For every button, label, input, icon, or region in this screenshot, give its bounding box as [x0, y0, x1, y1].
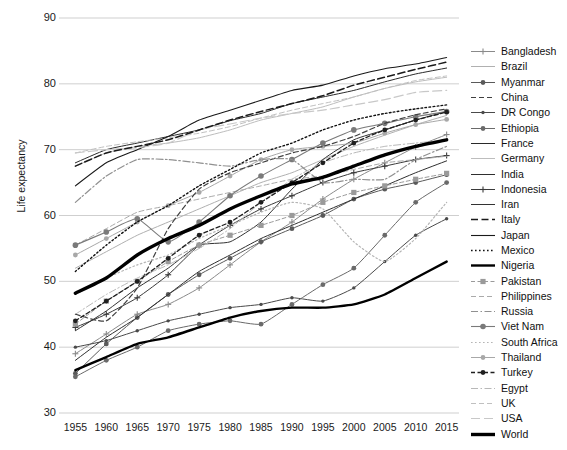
legend-item-mexico[interactable]: Mexico — [470, 243, 566, 258]
data-point — [290, 302, 295, 307]
data-point — [258, 173, 264, 179]
legend-item-russia[interactable]: Russia — [470, 304, 566, 319]
data-point — [480, 186, 486, 192]
legend-line-sample — [470, 351, 496, 364]
data-point — [444, 132, 450, 138]
legend-item-viet-nam[interactable]: Viet Nam — [470, 319, 566, 334]
legend-item-myanmar[interactable]: Myanmar — [470, 75, 566, 90]
data-point — [165, 301, 171, 307]
y-tick-label: 80 — [26, 77, 56, 89]
data-point — [73, 253, 78, 258]
legend-label: DR Congo — [501, 106, 550, 119]
legend-item-indonesia[interactable]: Indonesia — [470, 182, 566, 197]
y-tick-label: 70 — [26, 143, 56, 155]
data-point — [290, 147, 295, 152]
data-point — [228, 174, 233, 179]
legend-item-brazil[interactable]: Brazil — [470, 59, 566, 74]
legend-line-sample — [470, 91, 496, 104]
legend-item-nigeria[interactable]: Nigeria — [470, 258, 566, 273]
series-uk — [75, 76, 446, 153]
data-point — [197, 243, 202, 248]
legend-label: Thailand — [501, 351, 541, 364]
legend-item-iran[interactable]: Iran — [470, 197, 566, 212]
y-tick-label: 50 — [26, 274, 56, 286]
data-point — [73, 374, 78, 379]
legend-item-turkey[interactable]: Turkey — [470, 365, 566, 380]
data-point — [351, 190, 356, 195]
legend-line-sample — [470, 106, 496, 119]
data-point — [414, 234, 417, 237]
legend-line-sample — [470, 397, 496, 410]
legend-label: China — [501, 91, 528, 104]
legend-label: Japan — [501, 229, 530, 242]
legend-line-sample — [470, 76, 496, 89]
legend-line-sample — [470, 428, 496, 441]
legend-item-philippines[interactable]: Philippines — [470, 289, 566, 304]
data-point — [105, 339, 108, 342]
data-point — [382, 233, 387, 238]
y-tick-label: 90 — [26, 11, 56, 23]
data-point — [228, 256, 233, 261]
data-point — [382, 183, 387, 188]
data-point — [228, 220, 233, 225]
legend-item-india[interactable]: India — [470, 166, 566, 181]
data-point — [104, 229, 110, 235]
chart-legend: BangladeshBrazilMyanmarChinaDR CongoEthi… — [470, 44, 566, 442]
data-point — [166, 256, 171, 261]
legend-label: India — [501, 168, 524, 181]
legend-item-world[interactable]: World — [470, 426, 566, 441]
data-point — [444, 171, 449, 176]
legend-item-pakistan[interactable]: Pakistan — [470, 273, 566, 288]
legend-line-sample — [470, 198, 496, 211]
series-line — [75, 109, 446, 321]
legend-label: World — [501, 428, 528, 441]
data-point — [73, 242, 79, 248]
data-point — [197, 313, 200, 316]
legend-label: South Africa — [501, 336, 558, 349]
legend-item-uk[interactable]: UK — [470, 396, 566, 411]
series-line — [75, 76, 446, 153]
data-point — [73, 318, 78, 323]
legend-label: Pakistan — [501, 275, 541, 288]
data-point — [382, 128, 387, 133]
series-italy — [75, 62, 446, 166]
legend-item-south-africa[interactable]: South Africa — [470, 335, 566, 350]
legend-line-sample — [470, 152, 496, 165]
legend-item-thailand[interactable]: Thailand — [470, 350, 566, 365]
data-point — [480, 278, 485, 283]
y-tick-label: 30 — [26, 406, 56, 418]
legend-line-sample — [470, 275, 496, 288]
data-point — [258, 223, 263, 228]
legend-item-italy[interactable]: Italy — [470, 212, 566, 227]
data-point — [480, 324, 486, 330]
data-point — [259, 239, 264, 244]
data-point — [321, 299, 324, 302]
data-point — [481, 370, 486, 375]
legend-item-china[interactable]: China — [470, 90, 566, 105]
legend-item-usa[interactable]: USA — [470, 411, 566, 426]
legend-label: Germany — [501, 152, 544, 165]
series-brazil — [75, 115, 446, 268]
legend-item-japan[interactable]: Japan — [470, 228, 566, 243]
legend-item-ethiopia[interactable]: Ethiopia — [470, 120, 566, 135]
series-line — [75, 115, 446, 268]
legend-item-dr-congo[interactable]: DR Congo — [470, 105, 566, 120]
legend-item-france[interactable]: France — [470, 136, 566, 151]
legend-line-sample — [470, 244, 496, 257]
legend-item-bangladesh[interactable]: Bangladesh — [470, 44, 566, 59]
legend-item-germany[interactable]: Germany — [470, 151, 566, 166]
legend-label: Brazil — [501, 60, 527, 73]
data-point — [481, 111, 484, 114]
data-point — [135, 279, 140, 284]
chart-root: Life expectancy 30405060708090 195519601… — [0, 0, 567, 450]
data-point — [166, 328, 171, 333]
legend-label: Nigeria — [501, 259, 534, 272]
data-point — [351, 266, 356, 271]
data-point — [444, 110, 449, 115]
data-point — [227, 193, 233, 199]
legend-line-sample — [470, 382, 496, 395]
legend-label: Mexico — [501, 244, 534, 257]
legend-line-sample — [470, 183, 496, 196]
legend-item-egypt[interactable]: Egypt — [470, 381, 566, 396]
data-point — [289, 213, 294, 218]
